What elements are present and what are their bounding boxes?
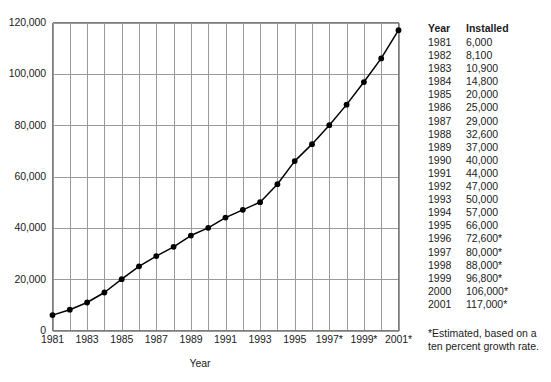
data-point-marker [257, 199, 263, 205]
table-row: 199247,000 [428, 180, 540, 193]
table-cell-year: 1996 [428, 232, 466, 245]
data-point-marker [205, 225, 211, 231]
table-row: 198310,900 [428, 62, 540, 75]
y-axis-tick-label: 100,000 [0, 67, 46, 79]
table-cell-installed: 10,900 [466, 62, 540, 75]
table-row: 199350,000 [428, 193, 540, 206]
table-row: 198832,600 [428, 128, 540, 141]
table-cell-installed: 20,000 [466, 88, 540, 101]
data-point-marker [136, 263, 142, 269]
table-cell-year: 1985 [428, 88, 466, 101]
table-row: 198625,000 [428, 101, 540, 114]
data-point-marker [396, 27, 402, 33]
table-cell-year: 1981 [428, 36, 466, 49]
table-cell-installed: 47,000 [466, 180, 540, 193]
table-row: 198520,000 [428, 88, 540, 101]
y-axis-tick-label: 60,000 [0, 170, 46, 182]
table-head: Year Installed [428, 22, 540, 36]
table-body: 19816,00019828,100198310,900198414,80019… [428, 36, 540, 311]
data-point-marker [171, 244, 177, 250]
table-cell-installed: 96,800* [466, 272, 540, 285]
table-row: 199457,000 [428, 206, 540, 219]
table-row: 198414,800 [428, 75, 540, 88]
installed-data-table: Year Installed 19816,00019828,100198310,… [428, 22, 548, 311]
x-axis-tick-label: 2001* [375, 333, 423, 345]
table-cell-installed: 44,000 [466, 167, 540, 180]
table-cell-installed: 14,800 [466, 75, 540, 88]
data-table-element: Year Installed 19816,00019828,100198310,… [428, 22, 540, 311]
table-cell-year: 2000 [428, 285, 466, 298]
table-cell-installed: 106,000* [466, 285, 540, 298]
table-cell-year: 1990 [428, 154, 466, 167]
table-cell-year: 1987 [428, 115, 466, 128]
data-point-marker [188, 233, 194, 239]
table-cell-installed: 72,600* [466, 232, 540, 245]
table-row: 199888,000* [428, 259, 540, 272]
data-point-marker [153, 253, 159, 259]
table-cell-installed: 88,000* [466, 259, 540, 272]
table-cell-year: 1998 [428, 259, 466, 272]
table-row: 19828,100 [428, 49, 540, 62]
table-cell-year: 1992 [428, 180, 466, 193]
data-point-marker [102, 290, 108, 296]
table-cell-installed: 80,000* [466, 246, 540, 259]
table-cell-year: 1984 [428, 75, 466, 88]
table-cell-installed: 66,000 [466, 219, 540, 232]
y-axis-tick-label: 20,000 [0, 273, 46, 285]
table-row: 199780,000* [428, 246, 540, 259]
table-cell-year: 1988 [428, 128, 466, 141]
table-row: 199996,800* [428, 272, 540, 285]
data-point-marker [309, 141, 315, 147]
table-cell-year: 1991 [428, 167, 466, 180]
clipped-bottom-caption [6, 374, 336, 380]
table-cell-installed: 8,100 [466, 49, 540, 62]
table-row: 198937,000 [428, 141, 540, 154]
table-row: 199040,000 [428, 154, 540, 167]
data-point-marker [326, 122, 332, 128]
table-cell-installed: 25,000 [466, 101, 540, 114]
data-point-markers [50, 27, 402, 318]
table-cell-installed: 50,000 [466, 193, 540, 206]
table-header-installed: Installed [466, 22, 540, 36]
table-cell-installed: 29,000 [466, 115, 540, 128]
data-point-marker [344, 102, 350, 108]
y-axis-tick-label: 40,000 [0, 221, 46, 233]
data-point-marker [223, 215, 229, 221]
table-cell-installed: 117,000* [466, 298, 540, 311]
y-axis-tick-label: 80,000 [0, 119, 46, 131]
table-cell-year: 1999 [428, 272, 466, 285]
table-header-row: Year Installed [428, 22, 540, 36]
y-axis-tick-label: 120,000 [0, 16, 46, 28]
vertical-gridlines [54, 23, 400, 331]
table-cell-year: 1986 [428, 101, 466, 114]
table-row: 198729,000 [428, 115, 540, 128]
table-row: 199672,600* [428, 232, 540, 245]
table-cell-year: 1983 [428, 62, 466, 75]
table-cell-installed: 32,600 [466, 128, 540, 141]
table-cell-year: 2001 [428, 298, 466, 311]
table-row: 199566,000 [428, 219, 540, 232]
data-point-marker [84, 300, 90, 306]
table-cell-year: 1995 [428, 219, 466, 232]
table-cell-installed: 37,000 [466, 141, 540, 154]
table-footnote: *Estimated, based on a ten percent growt… [428, 327, 550, 353]
table-row: 199144,000 [428, 167, 540, 180]
table-header-year: Year [428, 22, 466, 36]
table-cell-year: 1989 [428, 141, 466, 154]
data-point-marker [361, 79, 367, 85]
data-point-marker [50, 312, 56, 318]
table-row: 2000106,000* [428, 285, 540, 298]
table-cell-year: 1994 [428, 206, 466, 219]
data-point-marker [240, 207, 246, 213]
data-point-marker [119, 276, 125, 282]
table-cell-installed: 6,000 [466, 36, 540, 49]
data-point-marker [275, 181, 281, 187]
table-cell-year: 1982 [428, 49, 466, 62]
table-cell-installed: 40,000 [466, 154, 540, 167]
data-point-marker [292, 158, 298, 164]
table-row: 2001117,000* [428, 298, 540, 311]
x-axis-title: Year [0, 357, 400, 369]
data-point-marker [378, 56, 384, 62]
data-point-marker [67, 307, 73, 313]
table-row: 19816,000 [428, 36, 540, 49]
